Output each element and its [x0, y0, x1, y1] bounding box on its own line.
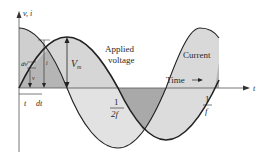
applied-voltage-label-line1: Applied [105, 44, 134, 54]
period-numerator: 1 [205, 94, 210, 104]
voltage-value-label: v [32, 75, 35, 81]
t-label: t [24, 99, 27, 108]
time-label: Time [166, 75, 185, 85]
current-label: Current [183, 50, 211, 60]
ac-waveform-diagram: Vm i dv v t dt v, i t Applied voltage Cu… [0, 0, 267, 156]
dt-label: dt [36, 99, 43, 108]
x-axis-label: t [253, 84, 256, 93]
applied-voltage-label-line2: voltage [108, 55, 135, 65]
y-axis-label: v, i [23, 9, 32, 18]
half-period-numerator: 1 [114, 97, 119, 107]
time-axis-arrowhead-icon [243, 86, 250, 91]
period-denominator: f [205, 106, 209, 116]
dv-label: dv [21, 60, 29, 68]
value-axis-arrowhead-icon [17, 11, 22, 18]
